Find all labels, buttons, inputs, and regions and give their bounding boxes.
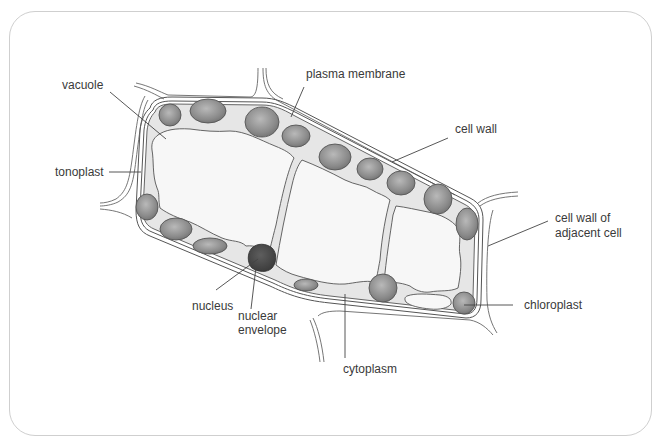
label-chloroplast: chloroplast xyxy=(524,297,582,314)
chloroplast xyxy=(160,218,192,240)
label-plasma-membrane: plasma membrane xyxy=(306,66,405,83)
chloroplast xyxy=(357,158,383,180)
chloroplast xyxy=(193,238,227,254)
chloroplast xyxy=(319,144,351,170)
chloroplast xyxy=(282,125,310,147)
chloroplast xyxy=(136,194,158,220)
label-nuclear-envelope-line2: envelope xyxy=(238,322,287,339)
chloroplast xyxy=(387,171,415,195)
chloroplast xyxy=(294,279,318,291)
chloroplast xyxy=(369,274,397,302)
label-cell-wall-adjacent-line2: adjacent cell xyxy=(555,225,622,242)
leader-plasma-membrane xyxy=(291,87,304,117)
nucleus xyxy=(248,244,276,271)
label-nucleus: nucleus xyxy=(192,298,233,315)
chloroplast xyxy=(245,107,279,137)
chloroplast xyxy=(190,99,226,123)
leader-cell-wall-adjacent xyxy=(488,221,548,246)
leader-nuclear-envelope xyxy=(251,267,256,309)
label-cytoplasm: cytoplasm xyxy=(343,361,397,378)
chloroplast xyxy=(453,292,475,314)
label-cell-wall: cell wall xyxy=(455,121,497,138)
chloroplast xyxy=(159,104,181,126)
chloroplast xyxy=(424,184,452,214)
label-tonoplast: tonoplast xyxy=(55,164,104,181)
label-vacuole: vacuole xyxy=(62,77,103,94)
chloroplast xyxy=(456,208,478,240)
leader-cell-wall xyxy=(392,138,448,162)
small-vacuole xyxy=(405,294,451,309)
